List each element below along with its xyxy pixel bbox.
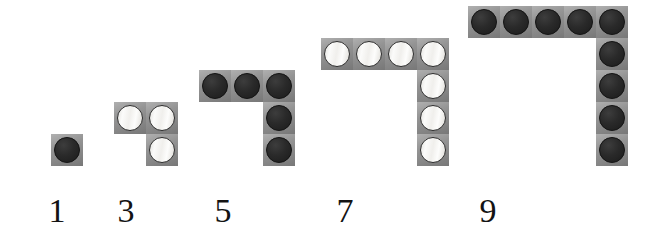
counter-tile [417,134,449,166]
light-counter-icon [420,73,447,100]
dark-counter-icon [567,9,593,35]
counter-tile [146,134,178,166]
light-counter-icon [149,105,176,132]
light-counter-icon [388,41,415,68]
counter-tile [146,102,178,134]
dark-counter-icon [234,73,260,99]
dark-counter-icon [266,73,292,99]
gnomon-label-9: 9 [458,194,518,228]
counter-tile [199,70,231,102]
gnomon-shape-5 [199,70,295,166]
gnomon-label-3: 3 [96,194,156,228]
light-counter-icon [149,137,176,164]
light-counter-icon [420,137,447,164]
dark-counter-icon [266,137,292,163]
counter-tile [596,134,628,166]
gnomon-label-5: 5 [193,194,253,228]
dark-counter-icon [266,105,292,131]
counter-tile [263,102,295,134]
counter-tile [231,70,263,102]
light-counter-icon [420,41,447,68]
counter-tile [596,70,628,102]
dark-counter-icon [535,9,561,35]
dark-counter-icon [599,137,625,163]
counter-tile [51,134,83,166]
counter-tile [564,6,596,38]
dark-counter-icon [599,41,625,67]
counter-tile [385,38,417,70]
counter-tile [468,6,500,38]
light-counter-icon [324,41,351,68]
gnomon-label-1: 1 [27,194,87,228]
counter-tile [321,38,353,70]
dark-counter-icon [599,105,625,131]
light-counter-icon [356,41,383,68]
counter-tile [353,38,385,70]
gnomon-shape-1 [51,134,83,166]
dark-counter-icon [202,73,228,99]
counter-tile [596,102,628,134]
dark-counter-icon [471,9,497,35]
counter-tile [417,102,449,134]
light-counter-icon [420,105,447,132]
counter-tile [263,134,295,166]
counter-tile [417,38,449,70]
counter-tile [500,6,532,38]
light-counter-icon [117,105,144,132]
dark-counter-icon [503,9,529,35]
counter-tile [263,70,295,102]
dark-counter-icon [599,73,625,99]
gnomon-shape-3 [114,102,178,166]
counter-tile [532,6,564,38]
gnomon-figure: 13579 [0,0,653,248]
counter-tile [596,38,628,70]
dark-counter-icon [54,137,80,163]
gnomon-shape-9 [468,6,628,166]
counter-tile [417,70,449,102]
counter-tile [596,6,628,38]
gnomon-shape-7 [321,38,449,166]
counter-tile [114,102,146,134]
dark-counter-icon [599,9,625,35]
gnomon-label-7: 7 [315,194,375,228]
